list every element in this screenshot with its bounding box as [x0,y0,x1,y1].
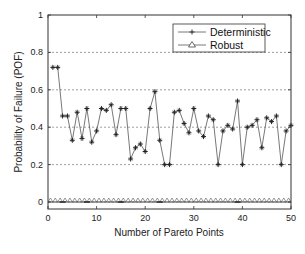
star-marker [70,138,75,143]
triangle-marker [223,198,228,202]
star-marker [177,108,182,113]
triangle-marker [262,198,267,202]
y-axis-label: Probability of Failure (POF) [13,51,24,172]
triangle-marker [267,198,272,202]
triangle-marker [97,198,102,202]
triangle-marker [213,198,218,202]
deterministic-line [53,67,291,164]
star-marker [118,106,123,111]
triangle-marker [174,198,179,202]
star-marker [60,113,65,118]
y-tick-label: 0.2 [30,160,43,170]
star-marker [128,156,133,161]
triangle-marker [204,198,209,202]
star-marker [245,125,250,130]
triangle-marker [126,198,131,202]
x-tick-label: 10 [92,213,102,223]
star-marker [216,162,221,167]
y-tick-label: 0.8 [30,47,43,57]
triangle-marker [145,198,150,202]
star-marker [89,140,94,145]
y-tick-label: 0 [38,197,43,207]
x-tick-label: 30 [189,213,199,223]
triangle-marker [208,198,213,202]
star-marker [65,113,70,118]
x-tick-label: 20 [140,213,150,223]
star-marker [162,162,167,167]
triangle-marker [136,198,141,202]
triangle-marker [257,198,262,202]
triangle-marker [247,198,252,202]
star-marker [55,65,60,70]
star-marker [80,136,85,141]
chart: 00.20.40.60.8101020304050 Number of Pare… [0,0,305,254]
triangle-marker [165,198,170,202]
triangle-marker [184,198,189,202]
star-marker [123,106,128,111]
triangle-marker [92,198,97,202]
star-marker [172,110,177,115]
triangle-marker [218,198,223,202]
y-tick-label: 0.6 [30,85,43,95]
triangle-marker [111,198,116,202]
triangle-marker [48,198,53,202]
star-marker [75,110,80,115]
star-marker [94,128,99,133]
triangle-marker [106,198,111,202]
star-marker [182,121,187,126]
triangle-marker [72,198,77,202]
legend-label-robust: Robust [210,39,243,51]
triangle-marker [276,198,281,202]
y-tick-label: 0.4 [30,122,43,132]
star-marker [191,106,196,111]
triangle-marker [131,198,136,202]
legend: Deterministic Robust [173,24,271,52]
triangle-marker [228,198,233,202]
star-marker [114,132,119,137]
star-marker [167,162,172,167]
x-tick-label: 0 [45,213,50,223]
triangle-marker [170,198,175,202]
x-axis-label: Number of Pareto Points [114,227,224,238]
triangle-marker [272,198,277,202]
triangle-marker [189,198,194,202]
star-marker [279,162,284,167]
star-marker [240,162,245,167]
star-marker [259,145,264,150]
triangle-marker [150,198,155,202]
star-marker [143,149,148,154]
x-tick-label: 50 [286,213,296,223]
triangle-marker [281,198,286,202]
star-marker [186,130,191,135]
triangle-marker [67,198,72,202]
triangle-marker [286,198,291,202]
legend-label-deterministic: Deterministic [210,26,271,38]
triangle-marker [140,198,145,202]
star-marker [157,138,162,143]
triangle-marker [242,198,247,202]
triangle-marker [53,198,58,202]
star-marker [148,106,153,111]
triangle-marker [77,198,82,202]
triangle-marker [252,198,257,202]
triangle-marker [179,198,184,202]
star-marker [84,106,89,111]
star-marker [99,106,104,111]
triangle-marker [101,198,106,202]
x-tick-label: 40 [237,213,247,223]
grid-lines [48,52,291,202]
star-marker [235,99,240,104]
star-marker [50,65,55,70]
data-series [48,65,294,202]
triangle-marker [194,198,199,202]
triangle-marker [199,198,204,202]
y-tick-label: 1 [38,10,43,20]
